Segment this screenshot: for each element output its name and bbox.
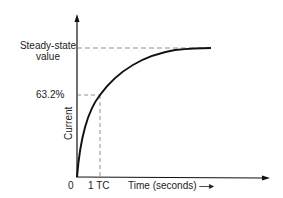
- y-axis-label: Current: [63, 107, 74, 140]
- steady-state-label: Steady-state value: [18, 40, 78, 62]
- steady-state-label-line2: value: [18, 51, 78, 62]
- steady-state-label-line1: Steady-state: [18, 40, 78, 51]
- x-axis: [76, 177, 263, 178]
- x-tick-zero: 0: [68, 180, 74, 191]
- x-axis-arrow-icon: [262, 176, 270, 181]
- x-tick-one-tc: 1 TC: [88, 180, 110, 191]
- current-curve: [77, 48, 211, 177]
- y-axis-arrow-icon: [75, 14, 80, 22]
- percent-632-label: 63.2%: [36, 89, 64, 100]
- x-axis-label: Time (seconds) —▸: [128, 180, 214, 191]
